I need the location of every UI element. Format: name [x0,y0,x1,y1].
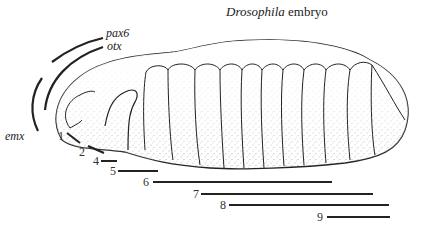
label-pax6: pax6 [106,27,129,39]
figure-title: Drosophila embryo [226,4,328,20]
embryo-illustration [0,0,432,235]
label-emx: emx [5,130,24,142]
label-8: 8 [220,199,226,211]
title-rest: embryo [285,4,328,19]
title-species: Drosophila [226,4,285,19]
label-5: 5 [110,165,116,177]
label-1: 1 [58,130,64,142]
label-2: 2 [79,146,85,158]
drosophila-embryo-figure: Drosophila embryo pax6 otx emx 1 2 4 5 6… [0,0,432,235]
label-7: 7 [193,188,199,200]
emx-arc [32,78,42,131]
embryo-body [56,40,408,169]
label-4: 4 [93,155,99,167]
label-otx: otx [107,40,122,52]
label-9: 9 [317,211,323,223]
label-6: 6 [143,176,149,188]
